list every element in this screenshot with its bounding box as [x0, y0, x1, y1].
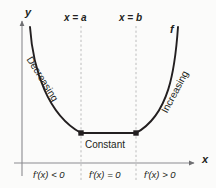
plot-canvas [0, 0, 216, 188]
x-axis-label: x [202, 154, 208, 165]
y-axis-label: y [25, 7, 31, 18]
region-label-derivative-positive: f'(x) > 0 [144, 170, 176, 180]
endpoint-marker-a [78, 130, 83, 135]
endpoint-marker-b [133, 130, 138, 135]
curve-increasing-branch [136, 27, 178, 133]
region-label-derivative-negative: f'(x) < 0 [33, 170, 65, 180]
function-curve-label: f [170, 24, 174, 35]
marker-label-x-equals-a: x = a [64, 13, 87, 23]
derivative-sign-figure: y x f x = a x = b Decreasing Increasing … [0, 0, 216, 188]
constant-label: Constant [85, 140, 125, 150]
region-label-derivative-zero: f'(x) = 0 [89, 170, 121, 180]
marker-label-x-equals-b: x = b [119, 13, 142, 23]
